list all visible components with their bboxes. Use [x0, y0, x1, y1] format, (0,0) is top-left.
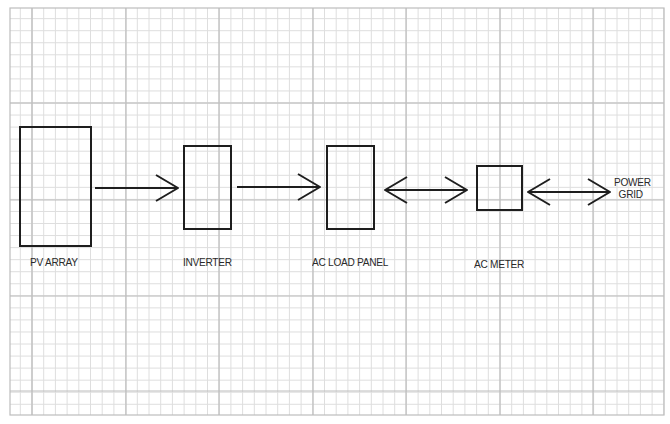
- label-ac-load-panel: AC LOAD PANEL: [312, 256, 388, 268]
- label-inverter: INVERTER: [183, 256, 232, 268]
- label-power-grid: POWER GRID: [614, 176, 651, 200]
- label-power-grid-line2: GRID: [614, 188, 651, 200]
- graph-paper: [0, 0, 670, 424]
- label-pv-array: PV ARRAY: [30, 256, 78, 268]
- diagram-canvas: PV ARRAY INVERTER AC LOAD PANEL AC METER…: [0, 0, 670, 424]
- label-power-grid-line1: POWER: [614, 176, 651, 188]
- label-ac-meter: AC METER: [474, 258, 524, 270]
